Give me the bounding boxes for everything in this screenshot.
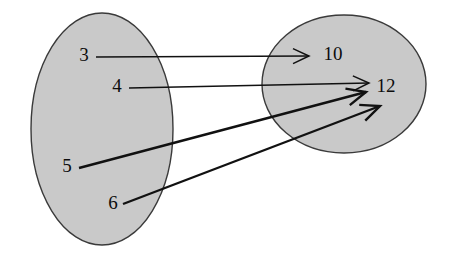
arrow-shaft bbox=[96, 56, 309, 57]
mapping-diagram-canvas: 34561012 bbox=[0, 0, 452, 265]
domain-set-ellipse bbox=[31, 13, 173, 245]
element-label-10: 10 bbox=[324, 43, 343, 64]
mapping-diagram: 34561012 bbox=[0, 0, 452, 265]
element-label-6: 6 bbox=[108, 192, 118, 213]
element-label-4: 4 bbox=[112, 75, 122, 96]
element-label-5: 5 bbox=[62, 155, 72, 176]
element-label-12: 12 bbox=[377, 75, 396, 96]
element-label-3: 3 bbox=[79, 44, 89, 65]
